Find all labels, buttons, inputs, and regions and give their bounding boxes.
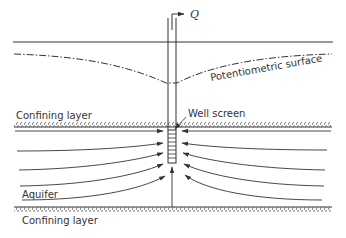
lower-confining-layer-label: Confining layer [22,215,99,226]
lower-confining-hatch [14,207,332,212]
well-screen-label: Well screen [188,108,245,119]
potentiometric-surface-label: Potentiometric surface [209,52,323,83]
aquifer-label: Aquifer [22,189,59,200]
discharge-label: Q [190,8,199,21]
well-screen [168,130,176,163]
upper-confining-hatch [14,122,332,127]
upper-confining-layer-label: Confining layer [16,110,93,121]
right-flow-lines [182,131,331,200]
confined-aquifer-diagram: Q Potentiometric surface Confining layer… [0,0,346,238]
well-casing [168,14,184,130]
